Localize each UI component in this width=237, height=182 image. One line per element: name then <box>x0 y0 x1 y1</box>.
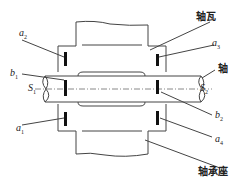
label-b2: b2 <box>215 110 223 122</box>
label-bearing-shell: 轴瓦 <box>196 12 216 22</box>
label-a4: a4 <box>215 134 223 146</box>
sensor-b1 <box>64 80 67 96</box>
label-a3: a3 <box>212 38 220 50</box>
upper-shell-outline <box>58 21 166 72</box>
label-a1: a1 <box>16 123 24 135</box>
journal-top <box>78 72 145 76</box>
sensor-a2 <box>64 52 67 66</box>
label-b1: b1 <box>10 68 18 80</box>
label-s2: S2 <box>200 83 208 95</box>
label-bearing-seat: 轴承座 <box>198 167 228 177</box>
lower-seat-outline <box>58 104 166 156</box>
label-a2: a2 <box>19 28 27 40</box>
label-s1: S1 <box>28 83 36 95</box>
journal-bottom <box>78 102 145 106</box>
sensor-b2 <box>156 80 159 94</box>
sensor-a4 <box>156 111 159 125</box>
sensor-a3 <box>156 54 159 66</box>
sensor-a1 <box>64 112 67 126</box>
label-shaft: 轴 <box>218 64 228 74</box>
